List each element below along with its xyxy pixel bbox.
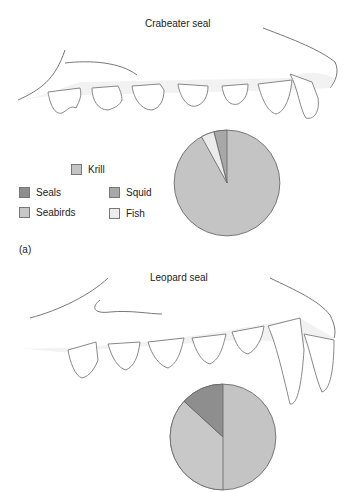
- legend-item-krill: Krill: [71, 164, 105, 175]
- legend-item-seabirds: Seabirds: [19, 207, 75, 218]
- crabeater-diet-pie: [172, 128, 282, 238]
- seabirds-swatch: [19, 207, 30, 218]
- panel-a-label: (a): [19, 244, 31, 255]
- seals-swatch: [19, 187, 30, 198]
- leopard-diet-pie: [168, 382, 278, 492]
- legend-item-fish: Fish: [109, 208, 145, 219]
- krill-swatch: [71, 164, 82, 175]
- legend-item-squid: Squid: [109, 187, 152, 198]
- legend-item-seals: Seals: [19, 187, 61, 198]
- fish-swatch: [109, 208, 120, 219]
- squid-swatch: [109, 187, 120, 198]
